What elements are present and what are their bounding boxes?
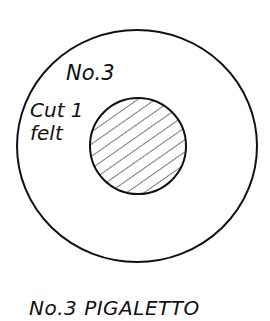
cut-instruction-line1: Cut 1: [30, 98, 84, 122]
piece-number-label: No.3: [66, 61, 115, 85]
pattern-diagram: No.3 Cut 1 felt No.3 PIGALETTO: [0, 0, 270, 321]
inner-circle-hatch: [80, 90, 200, 210]
cut-instruction-line2: felt: [30, 121, 64, 145]
pattern-caption: No.3 PIGALETTO: [29, 296, 200, 320]
